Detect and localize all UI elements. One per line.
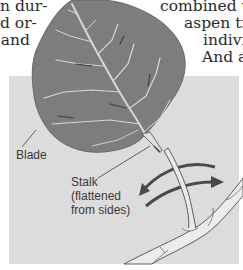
- right-text-line: combined with: [160, 0, 243, 15]
- leaf-stalk-lower: [164, 148, 196, 230]
- blade-leader-line: [22, 130, 36, 147]
- right-text-line: individ: [160, 32, 243, 49]
- right-text-line: And a: [160, 49, 243, 66]
- stalk-label-line: Stalk: [71, 175, 130, 189]
- right-column-text: combined with aspen tree individ And a: [160, 0, 243, 66]
- stalk-label-line: from sides): [71, 203, 130, 217]
- stalk-label: Stalk (flattened from sides): [71, 175, 130, 217]
- blade-label: Blade: [16, 148, 47, 162]
- right-text-line: aspen tree: [160, 15, 243, 32]
- stalk-label-line: (flattened: [71, 189, 130, 203]
